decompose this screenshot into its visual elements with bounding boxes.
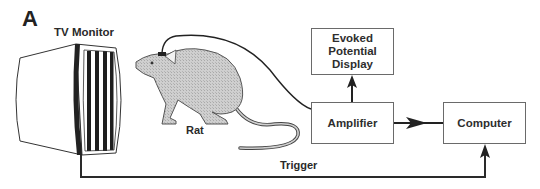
- computer-label: Computer: [457, 117, 511, 130]
- trigger-label: Trigger: [280, 159, 317, 171]
- evoked-line-3: Display: [328, 58, 377, 71]
- arrow-amp-to-computer: [394, 117, 443, 129]
- arrow-amp-to-display: [347, 75, 357, 102]
- diagram-canvas: A TV Monitor Rat Trigger Evoked Potentia…: [0, 0, 540, 189]
- rat-label: Rat: [186, 124, 204, 136]
- computer-box: Computer: [443, 102, 526, 144]
- evoked-line-2: Potential: [328, 45, 377, 58]
- rat-illustration: [136, 49, 298, 149]
- tv-monitor-label: TV Monitor: [54, 26, 114, 38]
- tv-monitor-icon: [16, 44, 121, 155]
- panel-letter: A: [22, 6, 38, 32]
- amplifier-label: Amplifier: [328, 117, 378, 130]
- evoked-line-1: Evoked: [328, 32, 377, 45]
- amplifier-box: Amplifier: [311, 102, 394, 144]
- evoked-potential-display-box: Evoked Potential Display: [311, 28, 394, 75]
